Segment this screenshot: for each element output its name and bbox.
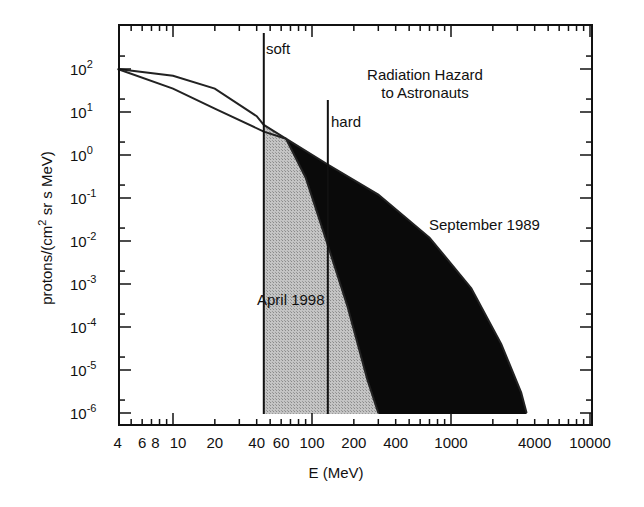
hard-label: hard: [331, 113, 361, 130]
x-tick-label: 1000: [434, 434, 467, 451]
y-tick-label: 10-1: [70, 187, 96, 207]
x-tick-label: 6: [138, 434, 146, 451]
x-tick-label: 60: [273, 434, 290, 451]
x-axis-title: E (MeV): [308, 464, 363, 481]
x-tick-labels: 468102040601002004001000400010000: [114, 434, 611, 451]
soft-label: soft: [266, 40, 291, 57]
y-tick-label: 10-3: [70, 273, 96, 293]
chart-title-line-2: to Astronauts: [381, 84, 469, 101]
y-tick-label: 100: [70, 144, 93, 164]
y-axis-title: protons/(cm2 sr s MeV): [36, 151, 55, 305]
april-1998-label: April 1998: [257, 291, 325, 308]
x-tick-label: 20: [206, 434, 223, 451]
y-tick-label: 10-4: [70, 316, 96, 336]
x-tick-label: 10: [170, 434, 187, 451]
y-tick-labels: 10210110010-110-210-310-410-510-6: [70, 58, 96, 422]
x-tick-label: 10000: [569, 434, 611, 451]
september-1989-label: September 1989: [429, 216, 540, 233]
y-tick-label: 10-6: [70, 402, 96, 422]
y-tick-label: 101: [70, 101, 93, 121]
x-tick-label: 400: [383, 434, 408, 451]
series-fills: [118, 69, 527, 414]
x-tick-label: 100: [299, 434, 324, 451]
radiation-hazard-chart: 468102040601002004001000400010000 102101…: [0, 0, 644, 507]
y-tick-label: 10-2: [70, 230, 96, 250]
x-tick-label: 4: [114, 434, 122, 451]
x-tick-label: 8: [151, 434, 159, 451]
x-tick-label: 40: [248, 434, 265, 451]
x-tick-label: 200: [341, 434, 366, 451]
x-tick-label: 4000: [518, 434, 551, 451]
y-tick-label: 10-5: [70, 359, 96, 379]
chart-title-line-1: Radiation Hazard: [367, 66, 483, 83]
y-tick-label: 102: [70, 58, 93, 78]
